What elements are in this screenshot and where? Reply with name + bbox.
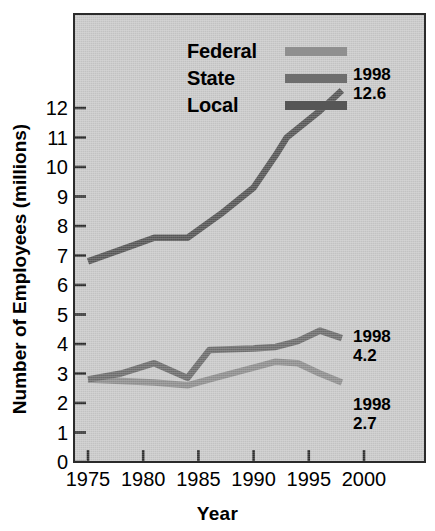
annotation-federal: 19982.7	[353, 395, 391, 433]
annotation-value: 2.7	[353, 414, 391, 433]
y-tick-label: 10	[46, 156, 68, 179]
x-tick-label: 2000	[342, 468, 387, 491]
y-tick-label: 12	[46, 97, 68, 120]
x-tick-label: 1995	[287, 468, 332, 491]
y-tick-label: 4	[57, 333, 68, 356]
y-tick-label: 5	[57, 303, 68, 326]
series-line-state	[88, 331, 342, 380]
legend-swatch-state	[285, 74, 347, 83]
annotation-year: 1998	[353, 327, 391, 346]
x-axis-title: Year	[0, 503, 435, 525]
legend-item-federal: Federal	[187, 39, 347, 63]
annotation-local: 199812.6	[353, 65, 391, 103]
annotation-year: 1998	[353, 65, 391, 84]
x-tick-label: 1985	[176, 468, 221, 491]
legend-swatch-local	[285, 101, 347, 110]
legend-label: State	[187, 67, 279, 90]
annotation-value: 4.2	[353, 346, 391, 365]
y-tick-label: 7	[57, 244, 68, 267]
y-tick-label: 8	[57, 215, 68, 238]
y-tick-label: 1	[57, 421, 68, 444]
y-tick-label: 9	[57, 185, 68, 208]
chart-page: 1211109876543210 Number of Employees (mi…	[0, 0, 435, 531]
y-tick-label: 3	[57, 362, 68, 385]
legend-item-local: Local	[187, 93, 347, 117]
annotation-state: 19984.2	[353, 327, 391, 365]
legend-label: Federal	[187, 40, 279, 63]
annotation-value: 12.6	[353, 84, 391, 103]
legend-swatch-federal	[285, 47, 347, 56]
x-tick-label: 1980	[121, 468, 166, 491]
x-tick-label: 1975	[66, 468, 111, 491]
legend-item-state: State	[187, 66, 347, 90]
y-tick-label: 6	[57, 274, 68, 297]
chart-legend: FederalStateLocal	[187, 39, 347, 120]
annotation-year: 1998	[353, 395, 391, 414]
legend-label: Local	[187, 94, 279, 117]
y-tick-label: 11	[47, 126, 68, 149]
y-tick-label: 2	[57, 392, 68, 415]
x-tick-label: 1990	[231, 468, 276, 491]
plot-frame: FederalStateLocal 199812.6 19984.2 19982…	[73, 13, 426, 463]
y-axis-title: Number of Employees (millions)	[9, 59, 31, 479]
